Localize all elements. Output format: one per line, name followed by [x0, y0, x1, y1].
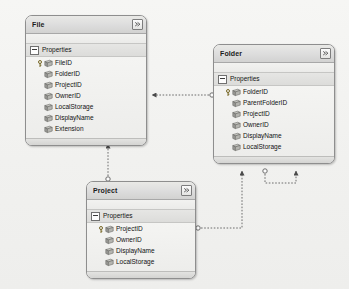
- entity-folder[interactable]: Folder Properties: [213, 44, 335, 164]
- section-label: Properties: [42, 47, 72, 54]
- entity-project-header[interactable]: Project: [87, 182, 195, 200]
- scalar-property-icon: [232, 88, 241, 97]
- property-row[interactable]: FileID: [26, 58, 146, 69]
- scalar-property-icon: [232, 132, 241, 141]
- scalar-property-icon: [232, 99, 241, 108]
- property-row[interactable]: ProjectID: [87, 224, 195, 235]
- key-slot-empty: [225, 110, 230, 119]
- entity-project-footer[interactable]: [87, 271, 195, 278]
- folder-to-file-association[interactable]: [152, 93, 214, 97]
- section-collapse-icon[interactable]: [91, 212, 100, 221]
- property-name: LocalStorage: [243, 144, 281, 151]
- scalar-property-icon: [44, 81, 53, 90]
- section-collapse-icon[interactable]: [30, 46, 39, 55]
- scalar-property-icon: [44, 92, 53, 101]
- entity-file-properties-section[interactable]: Properties: [26, 43, 146, 57]
- property-row[interactable]: FolderID: [26, 69, 146, 80]
- entity-folder-title: Folder: [220, 50, 320, 57]
- property-row[interactable]: ProjectID: [214, 109, 334, 120]
- property-name: Extension: [55, 126, 84, 133]
- scalar-property-icon: [105, 247, 114, 256]
- key-slot-empty: [225, 143, 230, 152]
- property-name: OwnerID: [116, 237, 142, 244]
- scalar-property-icon: [232, 110, 241, 119]
- property-row[interactable]: FolderID: [214, 87, 334, 98]
- property-row[interactable]: DisplayName: [26, 113, 146, 124]
- key-slot-empty: [225, 99, 230, 108]
- project-to-folder-association[interactable]: [196, 171, 242, 230]
- entity-folder-properties-section[interactable]: Properties: [214, 72, 334, 86]
- scalar-property-icon: [105, 258, 114, 267]
- entity-file-title: File: [32, 21, 132, 28]
- scalar-property-icon: [44, 125, 53, 134]
- property-name: FolderID: [243, 89, 268, 96]
- diagram-canvas[interactable]: File Properties: [0, 0, 349, 289]
- property-name: ProjectID: [116, 226, 143, 233]
- scalar-property-icon: [232, 121, 241, 130]
- key-slot-empty: [98, 236, 103, 245]
- entity-file-property-list: FileID FolderID: [26, 57, 146, 138]
- key-slot-empty: [98, 247, 103, 256]
- key-slot-empty: [37, 81, 42, 90]
- property-row[interactable]: ProjectID: [26, 80, 146, 91]
- entity-project-title: Project: [93, 187, 181, 194]
- property-name: ParentFolderID: [243, 100, 287, 107]
- property-name: DisplayName: [55, 115, 94, 122]
- scalar-property-icon: [44, 59, 53, 68]
- scalar-property-icon: [105, 236, 114, 245]
- property-name: DisplayName: [243, 133, 282, 140]
- key-slot-empty: [225, 121, 230, 130]
- scalar-property-icon: [44, 70, 53, 79]
- key-slot-empty: [98, 258, 103, 267]
- collapse-chevrons-icon[interactable]: [132, 19, 143, 30]
- property-name: ProjectID: [243, 111, 270, 118]
- entity-project-spacer: [87, 200, 195, 209]
- section-label: Properties: [230, 76, 260, 83]
- property-row[interactable]: LocalStorage: [26, 102, 146, 113]
- key-slot-empty: [37, 92, 42, 101]
- key-slot-empty: [37, 103, 42, 112]
- entity-file[interactable]: File Properties: [25, 15, 147, 146]
- collapse-chevrons-icon[interactable]: [181, 185, 192, 196]
- property-row[interactable]: LocalStorage: [214, 142, 334, 153]
- scalar-property-icon: [232, 143, 241, 152]
- entity-file-header[interactable]: File: [26, 16, 146, 34]
- project-to-file-association[interactable]: [106, 144, 110, 181]
- property-row[interactable]: OwnerID: [26, 91, 146, 102]
- entity-project-properties-section[interactable]: Properties: [87, 209, 195, 223]
- property-name: OwnerID: [243, 122, 269, 129]
- property-name: ProjectID: [55, 82, 82, 89]
- property-name: LocalStorage: [116, 259, 154, 266]
- scalar-property-icon: [44, 103, 53, 112]
- property-row[interactable]: DisplayName: [214, 131, 334, 142]
- entity-folder-property-list: FolderID ParentFolderID: [214, 86, 334, 156]
- collapse-chevrons-icon[interactable]: [320, 48, 331, 59]
- key-slot-empty: [37, 70, 42, 79]
- key-slot-empty: [37, 125, 42, 134]
- property-row[interactable]: Extension: [26, 124, 146, 135]
- property-row[interactable]: DisplayName: [87, 246, 195, 257]
- section-collapse-icon[interactable]: [218, 75, 227, 84]
- property-name: FolderID: [55, 71, 80, 78]
- primary-key-icon: [225, 88, 230, 97]
- entity-folder-footer[interactable]: [214, 156, 334, 163]
- property-name: DisplayName: [116, 248, 155, 255]
- section-label: Properties: [103, 213, 133, 220]
- property-name: FileID: [55, 60, 72, 67]
- entity-file-spacer: [26, 34, 146, 43]
- property-row[interactable]: ParentFolderID: [214, 98, 334, 109]
- entity-project-property-list: ProjectID OwnerID: [87, 223, 195, 271]
- primary-key-icon: [37, 59, 42, 68]
- scalar-property-icon: [105, 225, 114, 234]
- property-row[interactable]: OwnerID: [214, 120, 334, 131]
- entity-folder-header[interactable]: Folder: [214, 45, 334, 63]
- property-row[interactable]: OwnerID: [87, 235, 195, 246]
- key-slot-empty: [225, 132, 230, 141]
- entity-file-footer[interactable]: [26, 138, 146, 145]
- key-slot-empty: [37, 114, 42, 123]
- scalar-property-icon: [44, 114, 53, 123]
- folder-self-association[interactable]: [263, 169, 296, 183]
- entity-folder-spacer: [214, 63, 334, 72]
- property-row[interactable]: LocalStorage: [87, 257, 195, 268]
- entity-project[interactable]: Project Properties: [86, 181, 196, 279]
